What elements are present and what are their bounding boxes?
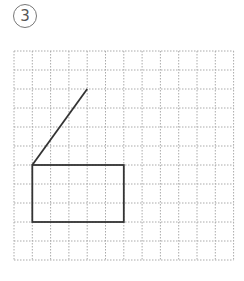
grid-diagram [0, 0, 244, 281]
dotted-grid [14, 51, 234, 260]
figure [32, 89, 124, 222]
rectangle [32, 165, 124, 222]
slanted-segment [32, 89, 87, 165]
